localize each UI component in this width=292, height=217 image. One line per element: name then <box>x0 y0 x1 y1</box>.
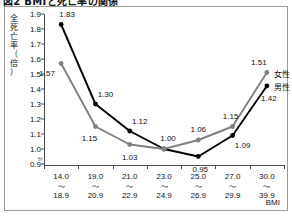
data-point-marker <box>162 147 167 152</box>
data-point-marker <box>59 61 64 66</box>
x-tick-label-from: 23.0 <box>156 172 172 181</box>
data-point-label: 1.15 <box>223 111 239 120</box>
x-tick-label-from: 14.0 <box>53 172 69 181</box>
data-point-marker <box>264 84 269 89</box>
x-tick-label: 30.0～39.9 <box>247 172 287 201</box>
data-point-label: 1.83 <box>59 9 75 18</box>
x-tick-mark <box>284 165 285 169</box>
x-tick-mark <box>78 165 79 169</box>
y-axis-title-char: 全 <box>8 14 20 23</box>
data-point-label: 1.09 <box>235 140 251 149</box>
x-tick-mark <box>113 165 114 169</box>
data-point-label: 1.51 <box>251 57 267 66</box>
x-tick-label-separator: ～ <box>247 182 287 192</box>
legend-label-male: 男性 <box>274 81 290 92</box>
data-point-label: 1.03 <box>122 152 138 161</box>
y-axis-title-char: 死 <box>8 23 20 32</box>
data-point-marker <box>230 124 235 129</box>
plot-area: 1.831.301.121.000.951.091.421.571.151.03… <box>44 14 284 164</box>
data-point-label: 1.12 <box>132 117 148 126</box>
data-point-marker <box>196 154 201 159</box>
x-tick-mark <box>44 165 45 169</box>
y-axis-title-char: （ <box>8 50 20 59</box>
data-point-label: 1.15 <box>82 133 98 142</box>
data-point-label: 1.00 <box>160 134 176 143</box>
data-point-label: 1.30 <box>98 90 114 99</box>
y-axis-title-char: 率 <box>8 41 20 50</box>
data-point-marker <box>230 133 235 138</box>
x-tick-label-from: 30.0 <box>259 172 275 181</box>
data-point-marker <box>93 124 98 129</box>
data-point-label: 1.06 <box>190 125 206 134</box>
x-tick-mark <box>181 165 182 169</box>
x-tick-label-from: 21.0 <box>122 172 138 181</box>
data-point-marker <box>264 70 269 75</box>
data-point-marker <box>196 138 201 143</box>
x-tick-label-to: 39.9 <box>247 191 287 201</box>
x-tick-label-from: 27.0 <box>225 172 241 181</box>
x-tick-mark <box>215 165 216 169</box>
x-tick-mark <box>250 165 251 169</box>
x-tick-mark <box>147 165 148 169</box>
data-point-marker <box>127 129 132 134</box>
data-point-marker <box>59 22 64 27</box>
data-point-label: 1.57 <box>39 68 55 77</box>
data-point-label: 1.42 <box>261 94 277 103</box>
y-axis-title-char: ） <box>8 68 20 77</box>
y-axis-title-char: 倍 <box>8 59 20 68</box>
data-point-marker <box>93 102 98 107</box>
y-axis-title: 全死亡率（倍） <box>8 14 20 77</box>
y-axis-title-char: 亡 <box>8 32 20 41</box>
figure-container: 図2 BMIと死亡率の関係 全死亡率（倍） 1.91.81.71.61.51.4… <box>0 0 292 217</box>
x-tick-label-from: 25.0 <box>190 172 206 181</box>
data-point-marker <box>127 142 132 147</box>
legend-label-female: 女性 <box>274 68 290 79</box>
x-tick-label-from: 19.0 <box>88 172 104 181</box>
